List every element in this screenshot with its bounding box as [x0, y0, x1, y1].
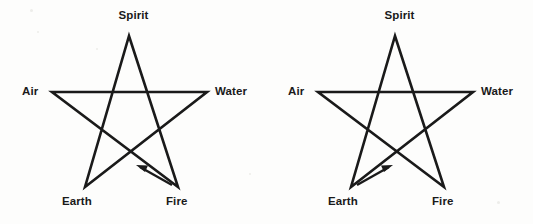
label-water: Water — [215, 86, 247, 98]
label-earth: Earth — [62, 196, 92, 208]
pentagram-figure: Spirit Air Water Earth Fire Spirit Air W… — [0, 0, 533, 224]
label-spirit: Spirit — [0, 10, 267, 22]
pentagram-lines-right — [266, 0, 533, 224]
pentagram-star-path — [318, 36, 473, 187]
label-fire: Fire — [166, 196, 188, 208]
label-earth: Earth — [328, 196, 358, 208]
pentagram-star-path — [52, 36, 207, 187]
label-fire: Fire — [432, 196, 454, 208]
pentagram-lines-left — [0, 0, 267, 224]
label-air: Air — [22, 86, 38, 98]
pentagram-diagram-right: Spirit Air Water Earth Fire — [266, 0, 533, 224]
label-spirit: Spirit — [266, 10, 533, 22]
pentagram-diagram-left: Spirit Air Water Earth Fire — [0, 0, 267, 224]
label-air: Air — [288, 86, 304, 98]
label-water: Water — [481, 86, 513, 98]
